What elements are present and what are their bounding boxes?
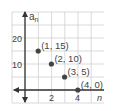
data-point bbox=[62, 74, 67, 79]
y-tick-10: 10 bbox=[12, 60, 22, 70]
x-axis-label: n bbox=[97, 93, 102, 103]
data-point bbox=[36, 48, 41, 53]
data-point-label: (1, 15) bbox=[41, 40, 68, 51]
data-point-label: (4, 0) bbox=[81, 79, 103, 90]
data-point-label: (2, 10) bbox=[54, 53, 81, 64]
data-points: (1, 15)(2, 10)(3, 5)(4, 0) bbox=[36, 40, 103, 93]
sequence-scatter-plot: an n 2 4 10 20 (1, 15)(2, 10)(3, 5)(4, 0… bbox=[0, 0, 115, 111]
y-axis-label: an bbox=[29, 11, 39, 23]
y-tick-20: 20 bbox=[12, 34, 22, 44]
x-axis-arrow-left-icon bbox=[13, 87, 19, 93]
data-point bbox=[49, 61, 54, 66]
data-point bbox=[75, 87, 80, 92]
data-point-label: (3, 5) bbox=[68, 66, 90, 77]
x-tick-4: 4 bbox=[75, 93, 80, 103]
y-axis-arrow-down-icon bbox=[22, 97, 28, 103]
x-tick-2: 2 bbox=[49, 93, 54, 103]
